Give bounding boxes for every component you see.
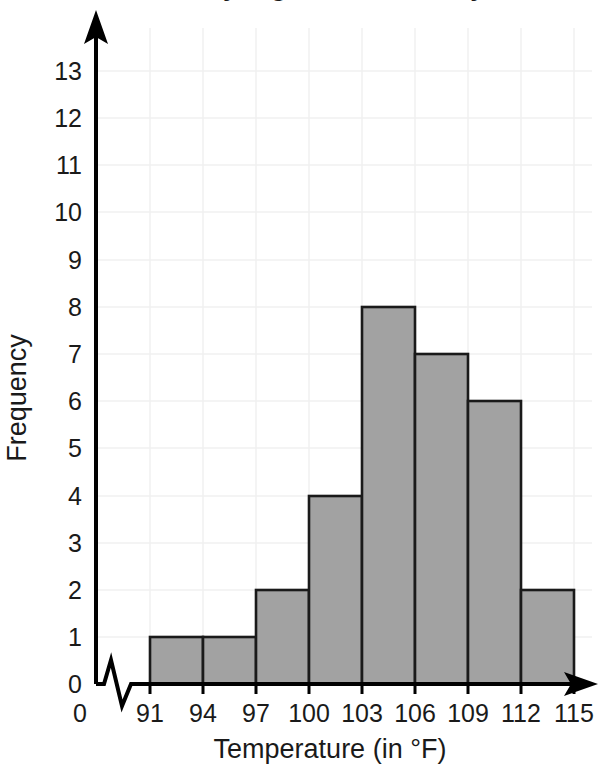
y-tick-1: 1: [68, 623, 82, 651]
bar-91-94: [150, 637, 203, 684]
y-tick-9: 9: [68, 246, 82, 274]
x-tick-103: 103: [341, 699, 383, 727]
y-tick-10: 10: [54, 198, 82, 226]
y-axis: [84, 10, 108, 684]
bar-112-115: [521, 590, 574, 684]
bar-109-112: [468, 401, 521, 684]
y-tick-8: 8: [68, 293, 82, 321]
x-axis-title: Temperature (in °F): [214, 734, 447, 764]
y-tick-3: 3: [68, 529, 82, 557]
bar-97-100: [256, 590, 309, 684]
bar-106-109: [415, 354, 468, 684]
x-tick-100: 100: [288, 699, 330, 727]
bar-100-103: [309, 496, 362, 684]
bar-94-97: [203, 637, 256, 684]
y-tick-5: 5: [68, 434, 82, 462]
y-tick-13: 13: [54, 57, 82, 85]
y-axis-title: Frequency: [2, 334, 32, 462]
x-tick-94: 94: [189, 699, 217, 727]
y-tick-2: 2: [68, 576, 82, 604]
y-axis-tick-labels: 13 12 11 10 9 8 7 6 5 4 3 2 1 0: [54, 57, 82, 698]
x-tick-97: 97: [242, 699, 270, 727]
y-tick-7: 7: [68, 340, 82, 368]
y-tick-6: 6: [68, 387, 82, 415]
x-tick-origin: 0: [73, 699, 87, 727]
x-tick-112: 112: [501, 699, 541, 727]
x-tick-106: 106: [394, 699, 436, 727]
y-tick-11: 11: [56, 151, 82, 179]
chart-title: Daily Highs, Death Valley: [175, 0, 485, 2]
x-tick-109: 109: [447, 699, 489, 727]
y-tick-4: 4: [68, 482, 82, 510]
y-tick-0: 0: [68, 670, 82, 698]
histogram-chart: 13 12 11 10 9 8 7 6 5 4 3 2 1 0 0 91 94 …: [0, 0, 602, 770]
y-tick-12: 12: [54, 104, 82, 132]
x-axis-tick-labels: 0 91 94 97 100 103 106 109 112 115: [73, 699, 594, 727]
x-tick-91: 91: [136, 699, 164, 727]
x-tick-115: 115: [554, 699, 594, 727]
histogram-figure: 13 12 11 10 9 8 7 6 5 4 3 2 1 0 0 91 94 …: [0, 0, 602, 770]
bar-103-106: [362, 307, 415, 684]
